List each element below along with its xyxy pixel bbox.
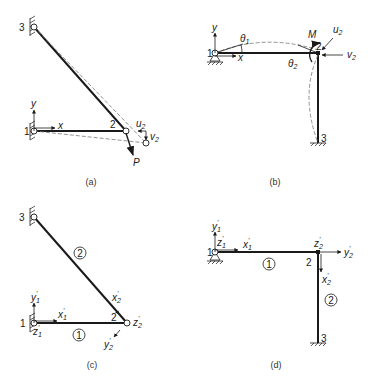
label-y1-prime: y1': [30, 290, 40, 304]
node-2-displaced: [143, 140, 149, 146]
caption-b: (b): [270, 177, 281, 187]
deformed-beam: [215, 42, 318, 53]
node-label-2: 2: [111, 312, 117, 323]
caption-a: (a): [86, 177, 97, 187]
node-label-1: 1: [24, 126, 30, 137]
label-load-p: P: [133, 157, 140, 168]
node-2: [124, 320, 130, 326]
node-3: [31, 214, 37, 220]
label-x1-prime: x1': [242, 237, 252, 251]
node-label-2: 2: [110, 119, 116, 130]
member-label-1: 1: [266, 259, 272, 270]
node-label-3: 3: [19, 212, 25, 223]
label-z1-prime: z1': [32, 324, 42, 338]
deformed-member-3-2: [34, 27, 146, 143]
label-v2: v2: [150, 131, 159, 143]
node-label-1: 1: [207, 247, 213, 258]
u2-arrow: [322, 38, 333, 50]
caption-d: (d): [271, 360, 282, 370]
member-3-2: [34, 27, 126, 131]
label-moment-m: M: [308, 29, 317, 40]
label-theta2: θ2: [288, 58, 297, 70]
label-x1-prime: x1': [57, 307, 67, 321]
member-label-1: 1: [76, 330, 82, 341]
node-3: [31, 24, 37, 30]
axis-label-y: y: [211, 22, 218, 33]
panel-b: 1 2 3 y x θ1 θ2 M u2 v2 (b): [207, 22, 356, 187]
panel-d: 1 2 1 2 3 y1' z1' x1' z2' y2' x2' (d): [207, 219, 353, 370]
label-u2: u2: [136, 118, 146, 130]
label-x2-prime: x2': [111, 290, 121, 304]
node-label-3: 3: [321, 333, 327, 344]
label-v2: v2: [347, 49, 356, 61]
label-z2-prime: z2': [132, 315, 142, 329]
axis-label-x: x: [237, 52, 244, 63]
node-label-3: 3: [19, 22, 25, 33]
node-label-2: 2: [306, 257, 312, 268]
panel-a: 3 1 2 y x u2 v2 P (a): [19, 16, 159, 187]
deformed-column: [309, 55, 318, 143]
node-label-3: 3: [321, 133, 327, 144]
label-z2-prime: z2': [313, 236, 323, 250]
node-label-1: 1: [207, 48, 213, 59]
caption-c: (c): [87, 360, 98, 370]
label-u2: u2: [333, 24, 343, 36]
structural-frames-figure: 3 1 2 y x u2 v2 P (a): [0, 0, 371, 381]
member-label-2: 2: [77, 248, 83, 259]
axis-label-y: y: [30, 98, 37, 109]
label-z1-prime: z1': [216, 235, 226, 249]
node-label-1: 1: [20, 318, 26, 329]
node-label-2: 2: [316, 41, 322, 52]
label-y2-prime: y2': [103, 337, 113, 351]
member-label-2: 2: [328, 295, 334, 306]
label-y2-prime: y2': [343, 245, 353, 259]
axis-label-x: x: [57, 120, 64, 131]
label-y1-prime: y1': [211, 219, 221, 233]
load-p-arrow: [126, 133, 133, 155]
label-theta1: θ1: [240, 33, 249, 45]
node-2-rigid: [316, 250, 320, 254]
label-x2-prime: x2': [321, 272, 331, 286]
y2-local-arrow: [114, 330, 120, 337]
panel-c: 2 1 3 1 2 y1' x1' z1' x2' z2' y2' (c): [19, 206, 142, 370]
